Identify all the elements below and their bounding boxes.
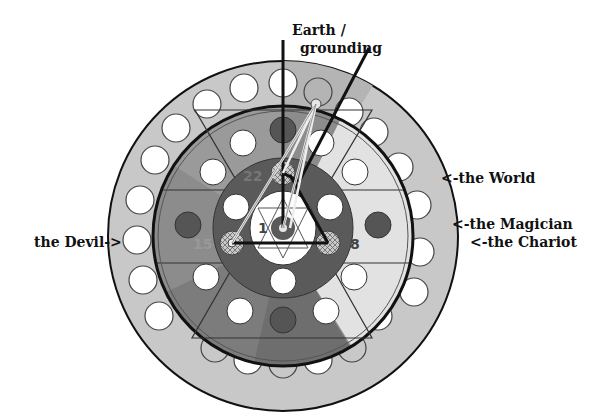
label-the-magician: <-the Magician bbox=[452, 216, 573, 232]
label-earth-grounding-line2: grounding bbox=[300, 40, 382, 56]
label-the-world: <-the World bbox=[441, 170, 535, 186]
number-15: 15 bbox=[193, 236, 212, 252]
label-the-chariot: <-the Chariot bbox=[470, 234, 577, 250]
number-22: 22 bbox=[243, 168, 262, 184]
tarot-circle-diagram: 22 1 15 8 bbox=[0, 0, 591, 413]
number-1: 1 bbox=[258, 220, 268, 236]
label-the-devil: the Devil-> bbox=[34, 234, 122, 250]
label-earth-grounding-line1: Earth / bbox=[292, 22, 346, 38]
number-8: 8 bbox=[350, 236, 360, 252]
